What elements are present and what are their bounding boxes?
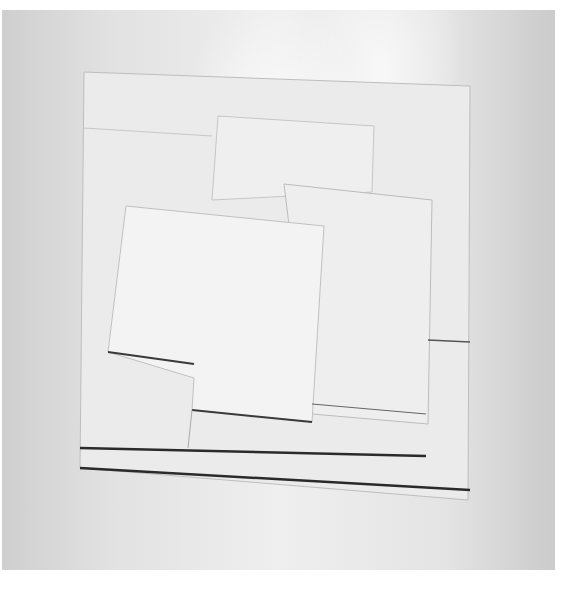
relief-panels (0, 0, 581, 606)
